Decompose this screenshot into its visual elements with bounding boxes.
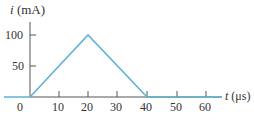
signal-line [4,35,222,97]
y-tick-label-50: 50 [12,59,24,74]
chart-canvas [0,0,254,124]
x-ticks [59,91,206,97]
x-axis-label: t (μs) [225,89,250,104]
x-tick-label-0: 0 [17,100,23,115]
x-tick-label-30: 30 [110,100,122,115]
x-tick-label-10: 10 [52,100,64,115]
x-tick-label-50: 50 [170,100,182,115]
y-tick-label-100: 100 [5,28,23,43]
y-axis-label: i (mA) [10,2,45,18]
x-tick-label-40: 40 [140,100,152,115]
x-tick-label-60: 60 [199,100,211,115]
x-tick-label-20: 20 [81,100,93,115]
